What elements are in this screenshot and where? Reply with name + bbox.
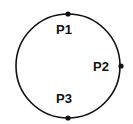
point-p2-label: P2 — [93, 59, 109, 74]
circle-diagram: P1P2P3 — [0, 0, 133, 124]
point-p2-marker — [118, 63, 123, 68]
points-layer: P1P2P3 — [56, 11, 124, 120]
point-p1-marker — [65, 11, 70, 16]
point-p3-marker — [65, 115, 70, 120]
point-p1-label: P1 — [56, 22, 72, 37]
point-p3-label: P3 — [56, 91, 72, 106]
